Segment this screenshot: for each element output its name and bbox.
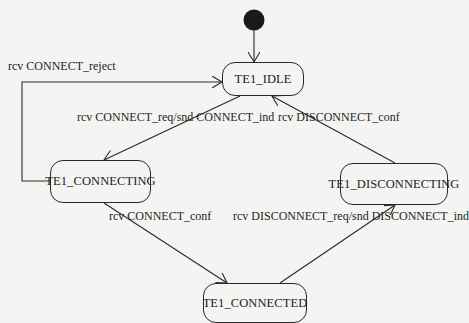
state-connected: TE1_CONNECTED xyxy=(203,283,307,323)
state-disconnecting-label: TE1_DISCONNECTING xyxy=(329,177,460,192)
state-connecting-label: TE1_CONNECTING xyxy=(45,174,155,189)
state-disconnecting: TE1_DISCONNECTING xyxy=(340,163,448,205)
arrow-idle-to-connecting xyxy=(104,96,240,160)
transition-label-connect-conf: rcv CONNECT_conf xyxy=(109,209,211,224)
arrow-disconnecting-to-idle xyxy=(272,96,395,163)
state-connected-label: TE1_CONNECTED xyxy=(203,296,308,311)
state-idle-label: TE1_IDLE xyxy=(234,72,291,87)
initial-state-node xyxy=(244,10,265,31)
transition-label-disconnect-conf: rcv DISCONNECT_conf xyxy=(278,110,400,125)
state-idle: TE1_IDLE xyxy=(222,62,304,96)
transition-label-disconnect-req: rcv DISCONNECT_req/snd DISCONNECT_ind xyxy=(233,209,469,224)
state-connecting: TE1_CONNECTING xyxy=(50,160,151,203)
transition-label-connect-req: rcv CONNECT_req/snd CONNECT_ind xyxy=(77,110,274,125)
transition-label-connect-reject: rcv CONNECT_reject xyxy=(8,59,116,74)
